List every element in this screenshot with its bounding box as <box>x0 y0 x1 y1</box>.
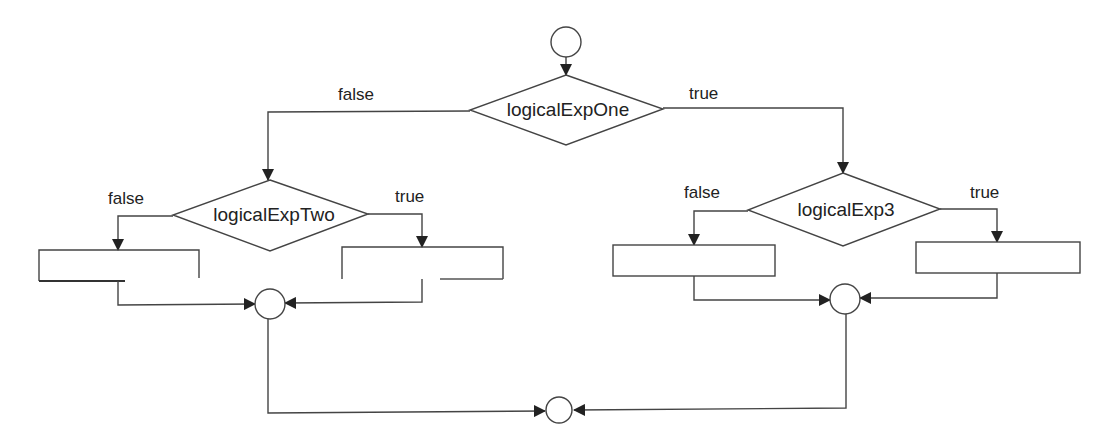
edge-two-true <box>368 214 422 247</box>
edge-box-two-true-to-merge <box>285 279 422 303</box>
box-two-true <box>342 247 503 279</box>
edge-label-one-true: true <box>689 84 718 104</box>
edge-label-three-true: true <box>970 183 999 203</box>
box-three-true <box>916 242 1080 273</box>
edge-one-false <box>268 111 470 180</box>
edge-label-one-false: false <box>338 85 374 105</box>
edge-merge-left-to-end <box>268 319 545 413</box>
edge-box-three-false-to-merge <box>694 276 830 300</box>
merge-left-node <box>255 289 285 319</box>
edge-two-false <box>118 216 173 250</box>
edge-label-two-true: true <box>395 187 424 207</box>
edge-three-false <box>694 211 748 245</box>
merge-right-node <box>830 284 860 314</box>
start-node <box>551 27 581 57</box>
edge-merge-right-to-end <box>574 314 846 410</box>
flowchart-canvas <box>0 0 1114 444</box>
edge-three-true <box>940 209 997 242</box>
box-three-false <box>613 245 775 276</box>
decision-three-label: logicalExp3 <box>797 199 894 221</box>
edge-label-two-false: false <box>108 189 144 209</box>
edge-one-true <box>663 108 843 173</box>
edge-box-three-true-to-merge <box>860 273 997 298</box>
edge-box-two-false-to-merge <box>118 281 255 305</box>
box-two-false <box>39 250 199 281</box>
decision-one-label: logicalExpOne <box>507 99 630 121</box>
edge-label-three-false: false <box>684 183 720 203</box>
decision-two-label: logicalExpTwo <box>213 204 334 226</box>
end-node <box>546 397 572 423</box>
